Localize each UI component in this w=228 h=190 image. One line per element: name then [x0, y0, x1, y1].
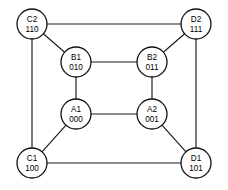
- node-name-a1: A1: [71, 105, 81, 114]
- node-code-a2: 001: [145, 115, 159, 124]
- edge-c2-b1: [43, 34, 64, 52]
- node-name-c1: C1: [27, 154, 38, 163]
- node-name-d1: D1: [191, 154, 202, 163]
- node-code-d1: 101: [189, 164, 203, 173]
- node-c1[interactable]: C1100: [17, 148, 47, 178]
- node-code-c1: 100: [25, 164, 39, 173]
- node-name-b1: B1: [71, 53, 81, 62]
- node-name-d2: D2: [191, 15, 202, 24]
- node-name-b2: B2: [147, 53, 157, 62]
- graph-canvas: C2110D2111B1010B2011A1000A2001C1100D1101: [0, 0, 228, 190]
- node-code-b1: 010: [69, 63, 83, 72]
- edge-c1-a1: [42, 125, 66, 152]
- node-code-b2: 011: [145, 63, 158, 72]
- node-d2[interactable]: D2111: [181, 9, 211, 39]
- node-c2[interactable]: C2110: [17, 9, 47, 39]
- node-d1[interactable]: D1101: [181, 148, 211, 178]
- node-a2[interactable]: A2001: [137, 99, 167, 129]
- edges-layer: [32, 24, 196, 163]
- cube-graph-diagram: C2110D2111B1010B2011A1000A2001C1100D1101: [0, 0, 228, 190]
- node-a1[interactable]: A1000: [61, 99, 91, 129]
- edge-d1-a2: [162, 125, 186, 152]
- node-name-c2: C2: [27, 15, 38, 24]
- node-b2[interactable]: B2011: [137, 47, 167, 77]
- node-code-d2: 111: [190, 25, 203, 34]
- node-code-c2: 110: [25, 25, 38, 34]
- node-b1[interactable]: B1010: [61, 47, 91, 77]
- node-code-a1: 000: [69, 115, 83, 124]
- edge-d2-b2: [163, 34, 184, 52]
- nodes-layer: C2110D2111B1010B2011A1000A2001C1100D1101: [17, 9, 211, 178]
- node-name-a2: A2: [147, 105, 157, 114]
